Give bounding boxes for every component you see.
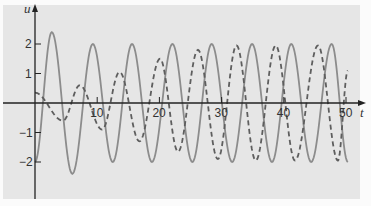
- y-tick-label: 2: [25, 37, 32, 51]
- x-tick-label: 30: [215, 106, 229, 120]
- chart-canvas: 1020304050 21−1−2 u t: [0, 0, 371, 206]
- y-tick-label: −2: [19, 155, 33, 169]
- x-axis-label: t: [360, 105, 364, 120]
- x-tick-label: 20: [152, 106, 166, 120]
- x-tick-label: 40: [277, 106, 291, 120]
- y-tick-label: −1: [19, 126, 33, 140]
- x-tick-label: 10: [90, 106, 104, 120]
- y-axis-label: u: [24, 1, 31, 16]
- y-tick-label: 1: [25, 67, 32, 81]
- x-tick-label: 50: [339, 106, 353, 120]
